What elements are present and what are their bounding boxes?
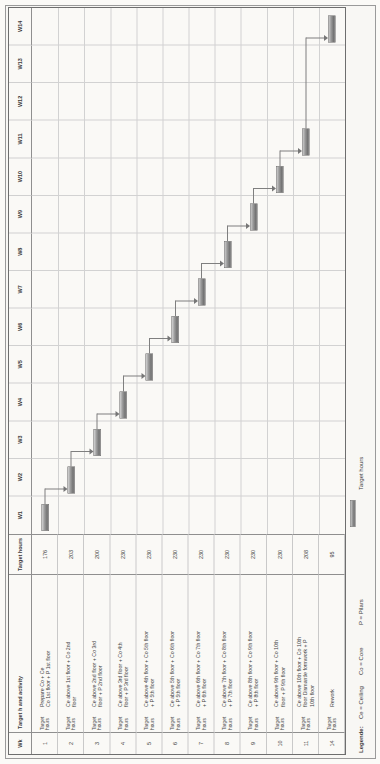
wk-cell: 4 — [110, 732, 136, 754]
legend-title: Legende: — [350, 726, 372, 753]
hours-cell: 230 — [162, 534, 188, 574]
activity-line: + P 8th floor — [253, 576, 259, 707]
week-header-w1: W1 — [9, 496, 32, 534]
gantt-bar — [120, 391, 128, 418]
scanned-gantt-figure: Wk Target h and activity Target hours W1… — [0, 0, 380, 764]
link-vline — [45, 488, 64, 489]
row-sublabel: Target hours — [169, 709, 180, 730]
week-header-w6: W6 — [9, 309, 32, 347]
rotated-landscape-figure: Wk Target h and activity Target hours W1… — [0, 0, 380, 764]
activity-line: + P 6th floor — [201, 576, 207, 707]
week-header-w10: W10 — [9, 158, 32, 196]
hours-cell: 176 — [32, 534, 58, 574]
gantt-bar — [41, 504, 49, 531]
activity-cell: Target hours Ce above 6th floor + Co 7th… — [189, 574, 215, 732]
link-vline — [202, 263, 221, 264]
row-sublabel: Target hours — [326, 709, 337, 730]
row-sublabel: Target hours — [143, 709, 154, 730]
legend-bar-label: Target hours — [350, 457, 372, 490]
wk-cell: 8 — [215, 732, 241, 754]
legend-item-p: P = Pilars — [350, 599, 372, 625]
activity-line: floor — [71, 576, 77, 707]
hours-cell: 230 — [267, 534, 293, 574]
link-vline — [97, 413, 116, 414]
row-gridline — [162, 8, 163, 534]
activity-cell: Target hours Ce above 2nd floor + Co 3rd… — [84, 574, 110, 732]
week-header-w11: W11 — [9, 121, 32, 159]
gantt-bar — [67, 466, 75, 493]
link-vline — [306, 38, 325, 39]
gantt-chart-area — [32, 8, 345, 534]
gantt-bar — [224, 241, 232, 268]
row-gridline — [189, 8, 190, 534]
link-vline — [254, 188, 273, 189]
link-arrowhead — [272, 185, 276, 191]
row-gridline — [84, 8, 85, 534]
row-sublabel: Target hours — [274, 709, 285, 730]
activity-cell: Target hours Ce above 1st floor + Co 2nd… — [58, 574, 84, 732]
gantt-bar — [172, 316, 180, 343]
activity-text: Ce above 1st floor + Co 2nd floor — [64, 576, 77, 707]
activity-cell: Target hours Prepare Co + Ce Co 1st floo… — [32, 574, 58, 732]
link-vline — [149, 338, 168, 339]
week-header-w14: W14 — [9, 8, 32, 46]
week-header-w5: W5 — [9, 346, 32, 384]
wk-cell: 1 — [32, 732, 58, 754]
activity-text: Ce above 10th floor + Co 10th floor Dism… — [296, 576, 315, 707]
hours-cell: 230 — [110, 534, 136, 574]
activity-text: Ce above 8th floor + Co 9th floor + P 8t… — [247, 576, 260, 707]
hours-cell: 230 — [241, 534, 267, 574]
gantt-bar — [250, 203, 258, 230]
activity-line: floor + P 9th floor — [279, 576, 285, 707]
row-sublabel: Target hours — [39, 709, 50, 730]
hours-cell: 230 — [136, 534, 162, 574]
activity-line: floor + P 3rd floor — [123, 576, 129, 707]
hours-cell: 208 — [293, 534, 319, 574]
wk-cell: 3 — [84, 732, 110, 754]
link-vline — [175, 301, 194, 302]
row-sublabel: Target hours — [248, 709, 259, 730]
activity-cell: Target hours Ce above 9th floor + Co 10t… — [267, 574, 293, 732]
link-hline — [71, 451, 72, 467]
activity-text: Ce above 6th floor + Co 7th floor + P 6t… — [195, 576, 208, 707]
link-arrowhead — [168, 336, 172, 342]
activity-line: + P 5th floor — [149, 576, 155, 707]
row-gridline — [267, 8, 268, 534]
hours-cell: 230 — [215, 534, 241, 574]
activity-text: Ce above 3rd floor + Co 4th floor + P 3r… — [117, 576, 130, 707]
legend-item-co: Co = Core — [350, 647, 372, 675]
link-arrowhead — [246, 223, 250, 229]
row-sublabel: Target hours — [91, 709, 102, 730]
activity-column-header: Target h and activity — [9, 574, 32, 732]
wk-cell: 14 — [319, 732, 345, 754]
gantt-bar — [302, 128, 310, 155]
week-header-w8: W8 — [9, 233, 32, 271]
link-hline — [97, 413, 98, 429]
activity-text: Ce above 2nd floor + Co 3rd floor + P 2n… — [90, 576, 103, 707]
activity-text: Ce above 5th floor + Co 6th floor + P 5t… — [169, 576, 182, 707]
hours-cell: 200 — [84, 534, 110, 574]
week-header-w4: W4 — [9, 384, 32, 422]
link-vline — [228, 225, 247, 226]
row-gridline — [110, 8, 111, 534]
week-header-w3: W3 — [9, 421, 32, 459]
activity-cell: Target hours Ce above 4th floor + Co 5th… — [136, 574, 162, 732]
link-arrowhead — [324, 35, 328, 41]
row-gridline — [215, 8, 216, 534]
link-hline — [253, 188, 254, 204]
wk-cell: 7 — [189, 732, 215, 754]
activity-cell: Target hours Ce above 8th floor + Co 9th… — [241, 574, 267, 732]
link-hline — [175, 301, 176, 317]
gantt-table: Wk Target h and activity Target hours W1… — [8, 7, 346, 755]
link-arrowhead — [89, 448, 93, 454]
legend-item-ce: Ce = Ceiling — [350, 686, 372, 719]
row-gridline — [58, 8, 59, 534]
link-arrowhead — [298, 148, 302, 154]
activity-text: Ce above 7th floor + Co 8th floor + P 7t… — [221, 576, 234, 707]
week-header-w13: W13 — [9, 46, 32, 84]
activity-cell: Target hours Ce above 10th floor + Co 10… — [293, 574, 319, 732]
wk-cell: 9 — [241, 732, 267, 754]
link-arrowhead — [220, 261, 224, 267]
row-sublabel: Target hours — [117, 709, 128, 730]
wk-column-header: Wk — [9, 732, 32, 754]
